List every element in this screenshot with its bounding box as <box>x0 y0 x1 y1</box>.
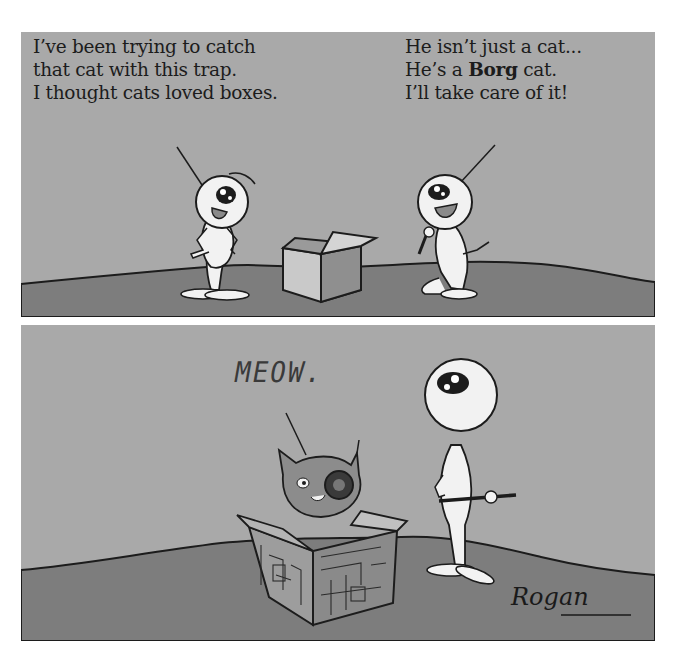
speech-pointer-left <box>177 147 202 185</box>
artist-signature: Rogan <box>511 583 589 611</box>
meow-sound-effect: MEOW. <box>232 356 326 389</box>
speech-text-left: I’ve been trying to catch that cat with … <box>33 35 278 104</box>
speech-pointer-right <box>460 145 495 183</box>
comic-panel-top: I’ve been trying to catch that cat with … <box>21 32 655 317</box>
comic-panel-bottom: MEOW. Rogan <box>21 325 655 641</box>
speech-text-right: He isn’t just a cat... He’s a Borg cat. … <box>405 35 582 104</box>
borg-emphasis: Borg <box>468 59 517 80</box>
speech-pointer-meow <box>286 413 306 455</box>
